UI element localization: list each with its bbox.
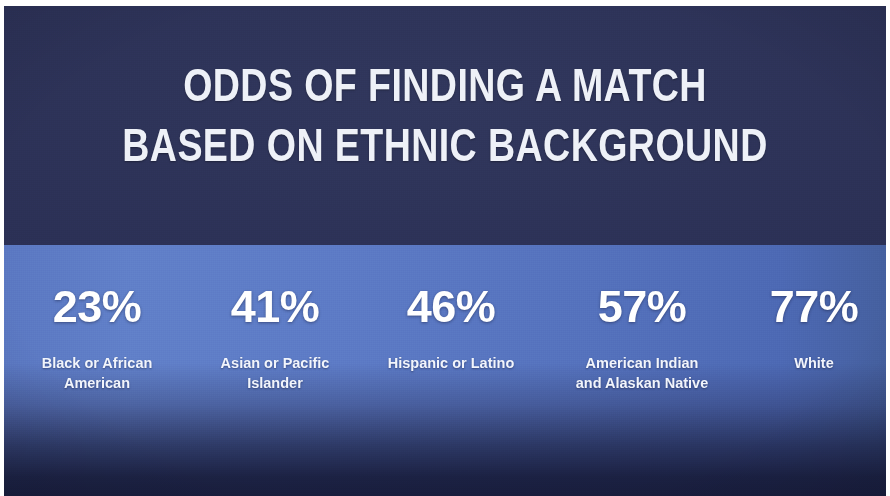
stat-value: 77% bbox=[770, 284, 859, 329]
stat-value: 41% bbox=[231, 284, 320, 329]
stat-value: 46% bbox=[407, 284, 496, 329]
stat-column-american-indian-and-alaskan-native: 57% American Indian and Alaskan Native bbox=[542, 245, 742, 393]
stat-column-black-or-african-american: 23% Black or African American bbox=[4, 245, 190, 393]
stat-label: Hispanic or Latino bbox=[388, 353, 515, 373]
stat-value: 57% bbox=[598, 284, 687, 329]
statistics-band: 23% Black or African American 41% Asian … bbox=[4, 245, 886, 496]
statistics-row: 23% Black or African American 41% Asian … bbox=[4, 245, 886, 415]
infographic-slide: ODDS OF FINDING A MATCH BASED ON ETHNIC … bbox=[0, 0, 890, 496]
stat-column-hispanic-or-latino: 46% Hispanic or Latino bbox=[360, 245, 542, 373]
title-line-2: BASED ON ETHNIC BACKGROUND bbox=[108, 115, 782, 175]
stat-label: American Indian and Alaskan Native bbox=[576, 353, 708, 393]
slide-canvas: ODDS OF FINDING A MATCH BASED ON ETHNIC … bbox=[4, 6, 886, 496]
stat-value: 23% bbox=[53, 284, 142, 329]
stat-label: Asian or Pacific Islander bbox=[221, 353, 330, 393]
page-title: ODDS OF FINDING A MATCH BASED ON ETHNIC … bbox=[4, 55, 886, 175]
stat-label: Black or African American bbox=[42, 353, 153, 393]
title-band: ODDS OF FINDING A MATCH BASED ON ETHNIC … bbox=[4, 6, 886, 245]
stat-column-asian-or-pacific-islander: 41% Asian or Pacific Islander bbox=[190, 245, 360, 393]
title-line-1: ODDS OF FINDING A MATCH bbox=[108, 55, 782, 115]
stat-column-white: 77% White bbox=[742, 245, 886, 373]
stat-label: White bbox=[794, 353, 833, 373]
